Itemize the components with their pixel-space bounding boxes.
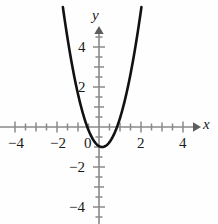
plot-area [0,0,218,224]
parabola-graph-figure: y x −4 −2 0 2 4 4 2 −2 −4 [0,0,218,224]
x-tick-label-neg2: −2 [50,136,66,151]
x-axis-label: x [203,117,210,132]
y-tick-label-4: 4 [78,40,86,55]
x-tick-label-neg4: −4 [8,136,24,151]
x-tick-label-4: 4 [179,136,187,151]
y-tick-label-neg2: −2 [69,160,85,175]
y-tick-label-neg4: −4 [69,200,85,215]
y-axis-label: y [92,8,99,23]
x-tick-label-2: 2 [137,136,145,151]
plot-background [0,0,218,224]
x-tick-label-zero: 0 [84,136,92,151]
y-tick-label-2: 2 [78,80,86,95]
